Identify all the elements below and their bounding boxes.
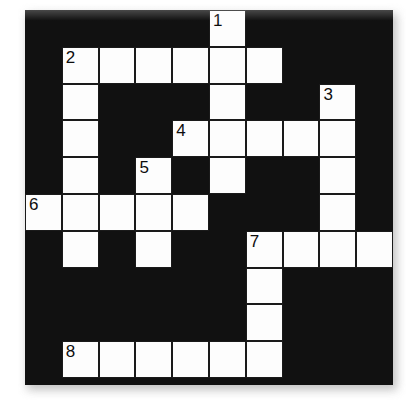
crossword-cell-numbered-5[interactable]: 5 [135, 157, 172, 194]
crossword-cell[interactable] [99, 341, 136, 378]
crossword-cell[interactable] [319, 157, 356, 194]
crossword-cell[interactable] [135, 231, 172, 268]
crossword-cell[interactable] [172, 47, 209, 84]
crossword-cell[interactable] [62, 84, 99, 121]
crossword-grid[interactable]: 12345678 [25, 10, 393, 385]
crossword-cell[interactable] [99, 194, 136, 231]
clue-number-4: 4 [176, 121, 185, 140]
crossword-cell[interactable] [283, 231, 320, 268]
crossword-cell[interactable] [135, 194, 172, 231]
crossword-cell-numbered-8[interactable]: 8 [62, 341, 99, 378]
crossword-cell-numbered-4[interactable]: 4 [172, 120, 209, 157]
crossword-cell[interactable] [172, 341, 209, 378]
clue-number-6: 6 [29, 195, 38, 214]
crossword-cell-numbered-7[interactable]: 7 [246, 231, 283, 268]
clue-number-3: 3 [323, 85, 332, 104]
crossword-cell[interactable] [319, 120, 356, 157]
crossword-cell[interactable] [209, 47, 246, 84]
crossword-cell[interactable] [209, 120, 246, 157]
crossword-page: 12345678 [0, 0, 414, 413]
crossword-cell-numbered-2[interactable]: 2 [62, 47, 99, 84]
clue-number-1: 1 [213, 11, 222, 30]
crossword-cell-numbered-3[interactable]: 3 [319, 84, 356, 121]
crossword-cell[interactable] [135, 47, 172, 84]
crossword-cell[interactable] [62, 157, 99, 194]
crossword-cell[interactable] [99, 47, 136, 84]
clue-number-2: 2 [66, 48, 75, 67]
crossword-cell[interactable] [246, 47, 283, 84]
clue-number-7: 7 [250, 232, 259, 251]
crossword-cell[interactable] [209, 341, 246, 378]
crossword-cell-numbered-1[interactable]: 1 [209, 10, 246, 47]
crossword-cell[interactable] [246, 120, 283, 157]
crossword-cell-numbered-6[interactable]: 6 [25, 194, 62, 231]
crossword-cell[interactable] [246, 268, 283, 305]
crossword-cell[interactable] [62, 194, 99, 231]
crossword-cell[interactable] [62, 120, 99, 157]
crossword-cell[interactable] [246, 304, 283, 341]
crossword-cell[interactable] [319, 231, 356, 268]
crossword-cell[interactable] [246, 341, 283, 378]
crossword-board[interactable]: 12345678 [25, 10, 393, 385]
crossword-cell[interactable] [209, 84, 246, 121]
crossword-cell[interactable] [62, 231, 99, 268]
crossword-cell[interactable] [135, 341, 172, 378]
clue-number-5: 5 [139, 158, 148, 177]
crossword-cell[interactable] [319, 194, 356, 231]
crossword-cell[interactable] [283, 120, 320, 157]
crossword-cell[interactable] [172, 194, 209, 231]
crossword-cell[interactable] [356, 231, 393, 268]
clue-number-8: 8 [66, 342, 75, 361]
crossword-cell[interactable] [209, 157, 246, 194]
